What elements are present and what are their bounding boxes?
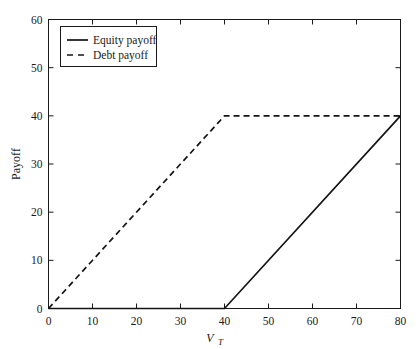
y-tick-label: 30 bbox=[31, 158, 43, 170]
series-debt-payoff bbox=[49, 116, 401, 309]
x-tick-label: 50 bbox=[263, 315, 275, 327]
chart-legend: Equity payoff Debt payoff bbox=[61, 27, 157, 67]
x-axis-tick-labels: 01020304050607080 bbox=[46, 315, 407, 327]
y-tick-label: 10 bbox=[31, 254, 43, 266]
x-tick-label: 20 bbox=[131, 315, 143, 327]
x-tick-label: 30 bbox=[175, 315, 187, 327]
legend-label-debt-payoff: Debt payoff bbox=[93, 49, 148, 62]
y-axis-tick-labels: 0102030405060 bbox=[31, 14, 43, 315]
x-tick-label: 70 bbox=[351, 315, 363, 327]
x-tick-label: 60 bbox=[307, 315, 319, 327]
data-series-group bbox=[49, 116, 401, 309]
x-axis-title-base: V bbox=[206, 331, 215, 345]
y-tick-label: 0 bbox=[37, 303, 43, 315]
y-tick-label: 50 bbox=[31, 62, 43, 74]
x-axis-title: V T bbox=[206, 331, 224, 347]
y-tick-label: 40 bbox=[31, 110, 43, 122]
y-axis-title: Payoff bbox=[9, 148, 23, 180]
y-tick-label: 20 bbox=[31, 206, 43, 218]
y-tick-label: 60 bbox=[31, 14, 43, 26]
x-tick-label: 10 bbox=[87, 315, 99, 327]
payoff-chart: 01020304050607080 0102030405060 Payoff V… bbox=[0, 0, 420, 349]
x-tick-label: 0 bbox=[46, 315, 52, 327]
legend-label-equity-payoff: Equity payoff bbox=[93, 34, 157, 47]
chart-figure: 01020304050607080 0102030405060 Payoff V… bbox=[0, 0, 420, 349]
x-tick-label: 80 bbox=[395, 315, 407, 327]
series-equity-payoff bbox=[49, 116, 401, 309]
x-axis-title-subscript: T bbox=[218, 337, 224, 347]
x-tick-label: 40 bbox=[219, 315, 231, 327]
